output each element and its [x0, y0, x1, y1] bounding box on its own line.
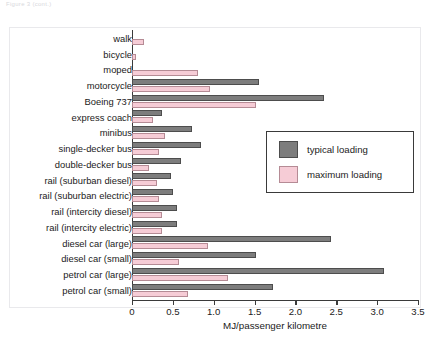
bar-maximum: [132, 149, 159, 155]
y-tick-label: motorcycle: [87, 81, 132, 90]
bar-group: [132, 267, 422, 283]
x-tick: [214, 300, 215, 305]
bar-row: rail (intercity electric): [10, 220, 422, 236]
bar-typical: [132, 236, 331, 242]
x-tick: [377, 300, 378, 305]
x-tick-label: 0.5: [166, 306, 179, 317]
bar-maximum: [132, 117, 153, 123]
bar-maximum: [132, 243, 208, 249]
bar-maximum: [132, 86, 210, 92]
bar-typical: [132, 110, 162, 116]
bar-maximum: [132, 259, 179, 265]
bar-row: walk: [10, 31, 422, 47]
bar-typical: [132, 221, 177, 227]
bar-maximum: [132, 39, 144, 45]
x-axis-title: MJ/passenger kilometre: [132, 320, 418, 331]
bar-row: petrol car (large): [10, 267, 422, 283]
bar-maximum: [132, 291, 188, 297]
y-tick-label: rail (intercity electric): [46, 223, 132, 232]
bar-maximum: [132, 54, 136, 60]
y-tick-label: minibus: [100, 129, 132, 138]
y-tick-label: Boeing 737: [85, 97, 132, 106]
legend-swatch-maximum-icon: [279, 166, 298, 183]
x-tick: [173, 300, 174, 305]
bar-row: Boeing 737: [10, 94, 422, 110]
bar-group: [132, 252, 422, 268]
y-tick-label: diesel car (small): [61, 255, 132, 264]
bar-typical: [132, 142, 201, 148]
bar-group: [132, 283, 422, 299]
y-tick-label: express coach: [72, 113, 132, 122]
legend-swatch-typical-icon: [279, 141, 298, 158]
bar-row: petrol car (small): [10, 283, 422, 299]
legend-entry-maximum: maximum loading: [279, 166, 382, 183]
y-tick-label: petrol car (small): [62, 286, 132, 295]
bar-row: diesel car (small): [10, 252, 422, 268]
bar-typical: [132, 79, 259, 85]
bar-row: diesel car (large): [10, 236, 422, 252]
y-tick-label: rail (suburban electric): [39, 192, 132, 201]
legend-entry-typical: typical loading: [279, 141, 368, 158]
bar-maximum: [132, 102, 256, 108]
y-tick-label: walk: [113, 34, 132, 43]
bar-row: rail (intercity diesel): [10, 204, 422, 220]
bar-maximum: [132, 180, 157, 186]
bar-maximum: [132, 196, 159, 202]
x-tick: [132, 300, 133, 305]
x-tick-label: 1.5: [248, 306, 261, 317]
bar-typical: [132, 252, 256, 258]
bar-row: motorcycle: [10, 78, 422, 94]
bar-typical: [132, 268, 384, 274]
bar-group: [132, 204, 422, 220]
bar-group: [132, 94, 422, 110]
x-tick-label: 1.0: [207, 306, 220, 317]
bar-group: [132, 220, 422, 236]
bar-maximum: [132, 165, 149, 171]
bar-maximum: [132, 228, 162, 234]
x-tick-label: 2.5: [330, 306, 343, 317]
bar-typical: [132, 205, 177, 211]
chart-legend: typical loading maximum loading: [266, 131, 414, 193]
y-tick-label: double-decker bus: [55, 160, 132, 169]
y-tick-label: rail (intercity diesel): [51, 207, 132, 216]
y-tick-label: rail (suburban diesel): [44, 176, 132, 185]
bar-group: [132, 236, 422, 252]
y-tick-label: diesel car (large): [62, 239, 132, 248]
bar-typical: [132, 189, 173, 195]
bar-row: bicycle: [10, 47, 422, 63]
figure-caption: Figure 3 (cont.): [6, 1, 51, 7]
x-tick-label: 3.0: [370, 306, 383, 317]
bar-typical: [132, 284, 273, 290]
bar-typical: [132, 158, 181, 164]
bar-group: [132, 47, 422, 63]
bar-group: [132, 110, 422, 126]
legend-label-maximum: maximum loading: [307, 169, 382, 180]
x-axis-line: [132, 300, 418, 301]
chart-frame: 00.51.01.52.02.53.03.5 walkbicyclemopedm…: [9, 27, 421, 308]
y-tick-label: petrol car (large): [63, 270, 132, 279]
bar-row: moped: [10, 63, 422, 79]
y-tick-label: moped: [103, 66, 132, 75]
bar-row: express coach: [10, 110, 422, 126]
x-tick: [418, 300, 419, 305]
x-tick-label: 2.0: [289, 306, 302, 317]
bar-group: [132, 31, 422, 47]
legend-label-typical: typical loading: [307, 144, 368, 155]
x-tick-label: 3.5: [411, 306, 424, 317]
bar-maximum: [132, 275, 228, 281]
bar-typical: [132, 95, 324, 101]
y-tick-label: bicycle: [103, 50, 132, 59]
x-tick: [255, 300, 256, 305]
bar-group: [132, 63, 422, 79]
bar-typical: [132, 126, 192, 132]
y-tick-label: single-decker bus: [59, 144, 132, 153]
x-tick: [295, 300, 296, 305]
bar-maximum: [132, 133, 165, 139]
bar-maximum: [132, 212, 162, 218]
bar-typical: [132, 173, 171, 179]
bar-maximum: [132, 70, 198, 76]
x-tick: [336, 300, 337, 305]
x-tick-label: 0: [129, 306, 134, 317]
bar-group: [132, 78, 422, 94]
